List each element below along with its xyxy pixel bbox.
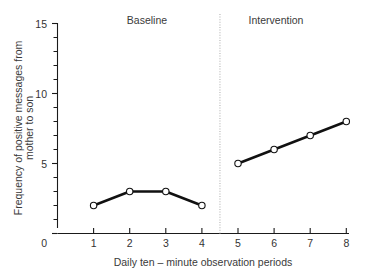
x-tick-label-2: 2 xyxy=(127,237,133,249)
y-tick-label-5: 5 xyxy=(41,158,47,170)
x-tick-label-1: 1 xyxy=(91,237,97,249)
x-tick-label-6: 6 xyxy=(271,237,277,249)
series-line-baseline xyxy=(94,192,202,206)
x-axis-title: Daily ten – minute observation periods xyxy=(114,256,293,268)
x-tick-label-3: 3 xyxy=(163,237,169,249)
phase-label-intervention: Intervention xyxy=(249,14,304,26)
x-tick-label-7: 7 xyxy=(307,237,313,249)
line-chart: 15 10 5 0 1 2 3 4 5 6 7 8 Baseline Inter… xyxy=(0,0,377,277)
phase-label-baseline: Baseline xyxy=(127,14,167,26)
y-axis-title-line2: mother to son xyxy=(23,96,35,160)
y-tick-label-10: 10 xyxy=(35,88,47,100)
series-line-intervention xyxy=(238,122,346,164)
x-tick-label-8: 8 xyxy=(343,237,349,249)
chart-figure: 15 10 5 0 1 2 3 4 5 6 7 8 Baseline Inter… xyxy=(0,0,377,277)
y-tick-label-15: 15 xyxy=(35,18,47,30)
y-axis-minor-ticks xyxy=(54,38,58,220)
y-axis-major-ticks xyxy=(52,24,58,234)
x-tick-label-4: 4 xyxy=(199,237,205,249)
x-tick-label-5: 5 xyxy=(235,237,241,249)
y-tick-label-0: 0 xyxy=(41,237,47,249)
